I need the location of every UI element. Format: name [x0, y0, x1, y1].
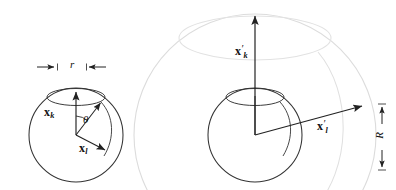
vector-xl-subscript-left: l	[85, 147, 87, 156]
left-panel-group	[29, 64, 123, 183]
vector-xk-subscript-right: k	[243, 51, 247, 60]
vector-xk-subscript-left: k	[50, 111, 54, 120]
angle-label-left: θ	[83, 114, 88, 125]
vector-xl-label-left: xl	[79, 142, 87, 156]
vector-xl-right	[255, 106, 362, 135]
diagram-canvas	[0, 0, 396, 190]
vector-xl-label-right: x′l	[317, 119, 328, 135]
vector-xl-subscript-right: l	[325, 126, 327, 135]
right-panel-group	[134, 14, 386, 190]
vector-xk-label-left: xk	[44, 106, 54, 120]
vector-xk-label-right: x′k	[235, 44, 248, 60]
great-circle-arc-right	[280, 102, 291, 156]
radius-label-left: r	[70, 59, 74, 70]
figure-container: r xk θ xl x′k x′l R	[0, 0, 396, 190]
great-circle-arc-left	[101, 102, 112, 156]
radius-label-right: R	[374, 132, 385, 139]
